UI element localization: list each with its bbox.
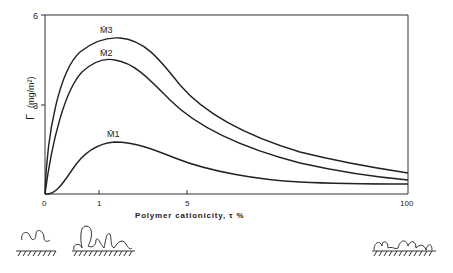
illustration-loops [72,226,135,256]
series-m1-line [45,142,408,194]
label-m2: M̄2 [100,48,113,58]
label-m1: M̄1 [107,129,120,139]
x-axis-label: Polymer cationicity, τ % [135,211,244,220]
label-m3: M̄3 [100,25,113,35]
x-tick-100: 100 [400,199,414,208]
chart: 6 3 0 1 5 100 Polymer cationicity, τ % Γ… [0,0,453,273]
series-m2-line [45,59,408,194]
y-axis-label-symbol: Γ [24,114,36,120]
x-tick-5: 5 [185,199,190,208]
x-tick-0: 0 [42,199,47,208]
y-axis-label-unit: (mg/m²) [26,77,36,109]
illustration-coil [16,231,56,256]
y-tick-6: 6 [33,11,38,21]
x-tick-1: 1 [97,199,102,208]
illustration-trains [372,241,436,256]
